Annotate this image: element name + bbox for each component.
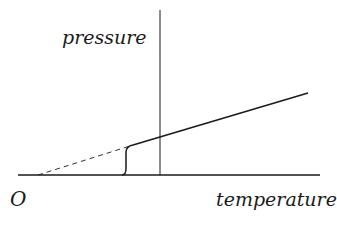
origin-label: O	[10, 187, 26, 211]
extrapolated-dashed-line	[38, 146, 130, 175]
pressure-axis-label: pressure	[62, 26, 147, 48]
temperature-axis-label: temperature	[216, 188, 337, 210]
transition-curve	[122, 145, 133, 175]
pressure-line	[133, 93, 308, 145]
